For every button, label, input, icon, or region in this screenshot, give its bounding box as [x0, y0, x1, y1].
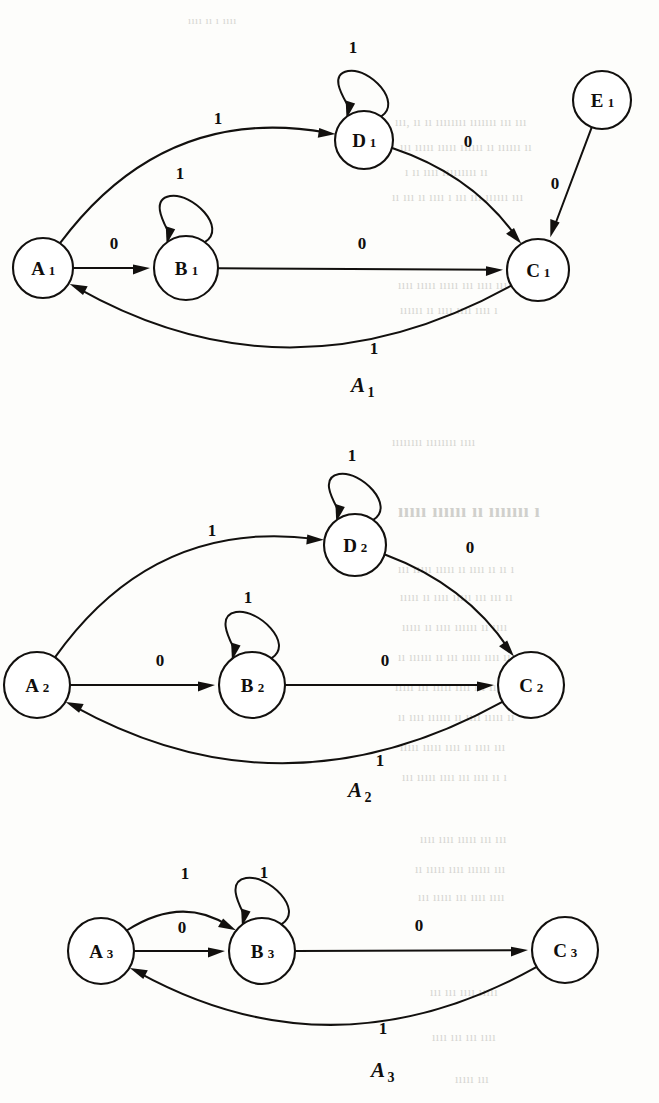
caption-A2: A2: [346, 778, 372, 805]
transition-A2-A2-D2-1-0[interactable]: 1: [55, 521, 324, 658]
edge-arrowhead-A3-B3-C3-0-3: [511, 947, 528, 957]
edge-label-A2-A2-B2-0-3: 0: [156, 651, 165, 670]
state-node-B2[interactable]: B2: [219, 652, 285, 718]
state-subscript-D2: 2: [361, 540, 368, 555]
state-node-A1[interactable]: A1: [13, 238, 73, 298]
transition-A2-A2-B2-0-3[interactable]: 0: [71, 651, 215, 692]
edge-arc-A2-D2-C2-0-2: [385, 554, 509, 649]
edge-label-A1-B1-C1-0-6: 0: [358, 234, 367, 253]
transition-A1-A1-B1-0-4[interactable]: 0: [74, 234, 150, 275]
edge-line-A1-B1-C1-0-6: [219, 268, 495, 270]
edge-label-A1-C1-A1-1-7: 1: [370, 339, 379, 358]
transition-A2-C2-A2-1-6[interactable]: 1: [66, 702, 503, 770]
edge-arc-A2-C2-A2-1-6: [74, 702, 503, 763]
transition-A2-B2-B2-1-4[interactable]: 1: [225, 588, 278, 661]
state-node-D2[interactable]: D2: [324, 514, 386, 576]
automaton-A1: 11000101A1B1C1D1E1A1: [13, 38, 631, 401]
state-letter-C1: C: [526, 260, 540, 281]
state-subscript-A1: 1: [49, 263, 56, 278]
transition-A1-C1-A1-1-7[interactable]: 1: [70, 284, 512, 358]
state-node-C1[interactable]: C1: [507, 239, 569, 301]
state-subscript-E1: 1: [608, 95, 615, 110]
transition-A1-D1-C1-0-2[interactable]: 0: [392, 132, 521, 244]
edge-label-A2-A2-D2-1-0: 1: [208, 521, 217, 540]
state-subscript-B1: 1: [192, 263, 199, 278]
transition-A1-B1-C1-0-6[interactable]: 0: [219, 234, 503, 277]
edge-arrowhead-A2-C2-A2-1-6: [66, 702, 84, 713]
caption-subscript-A1: 1: [368, 385, 375, 400]
transition-A2-D2-D2-1-1[interactable]: 1: [329, 446, 381, 523]
edge-arc-A1-C1-A1-1-7: [78, 286, 512, 348]
edge-label-A1-A1-B1-0-4: 0: [110, 234, 119, 253]
edge-arrowhead-A1-A1-B1-0-4: [133, 264, 150, 274]
caption-letter-A3: A: [369, 1058, 385, 1082]
state-letter-C3: C: [553, 940, 567, 961]
edge-label-A2-D2-D2-1-1: 1: [348, 446, 357, 465]
edge-label-A3-A3-B3-1-0: 1: [181, 864, 190, 883]
transition-A1-A1-D1-1-0[interactable]: 1: [60, 109, 335, 243]
caption-A1: A1: [349, 373, 375, 400]
edge-label-A2-D2-C2-0-2: 0: [466, 538, 475, 557]
edge-label-A1-E1-C1-0-3: 0: [551, 174, 560, 193]
state-node-C2[interactable]: C2: [498, 652, 564, 718]
transition-A2-D2-C2-0-2[interactable]: 0: [385, 538, 514, 657]
transition-A1-D1-D1-1-1[interactable]: 1: [338, 38, 388, 119]
edge-arc-A1-D1-C1-0-2: [392, 148, 516, 237]
caption-letter-A1: A: [349, 373, 365, 397]
state-subscript-B3: 3: [268, 946, 275, 961]
edge-label-A2-C2-A2-1-6: 1: [376, 751, 385, 770]
state-subscript-B2: 2: [258, 680, 265, 695]
state-node-B1[interactable]: B1: [154, 236, 218, 300]
edge-arrowhead-A2-B2-C2-0-5: [477, 681, 494, 691]
state-subscript-A3: 3: [107, 946, 114, 961]
caption-letter-A2: A: [346, 778, 362, 802]
automaton-A3: 10101A3B3C3A3: [68, 863, 598, 1086]
state-letter-D1: D: [352, 130, 366, 151]
automata-diagram-svg: 11000101A1B1C1D1E1A11100101A2B2C2D2A2101…: [0, 0, 659, 1103]
state-letter-B1: B: [175, 258, 188, 279]
edge-arrowhead-A3-A3-B3-0-1: [208, 947, 225, 957]
state-node-A2[interactable]: A2: [4, 652, 70, 718]
state-node-D1[interactable]: D1: [335, 111, 393, 169]
edge-label-A2-B2-B2-1-4: 1: [244, 588, 253, 607]
caption-subscript-A3: 3: [388, 1070, 395, 1085]
transition-A1-E1-C1-0-3[interactable]: 0: [550, 128, 591, 237]
transition-A3-B3-C3-0-3[interactable]: 0: [296, 916, 528, 957]
edge-arrowhead-A2-D2-C2-0-2: [499, 641, 514, 657]
transition-A3-A3-B3-0-1[interactable]: 0: [135, 918, 225, 958]
edge-arrowhead-A1-A1-D1-1-0: [318, 128, 336, 138]
state-subscript-C1: 1: [544, 265, 551, 280]
transition-A3-C3-A3-1-4[interactable]: 1: [130, 967, 536, 1037]
edge-arrowhead-A1-E1-C1-0-3: [550, 219, 559, 237]
edge-label-A3-A3-B3-0-1: 0: [178, 918, 187, 937]
edge-label-A1-A1-D1-1-0: 1: [214, 109, 223, 128]
state-node-B3[interactable]: B3: [229, 918, 295, 984]
state-subscript-A2: 2: [43, 680, 50, 695]
edge-label-A3-B3-C3-0-3: 0: [415, 916, 424, 935]
state-letter-B2: B: [241, 675, 254, 696]
state-letter-B3: B: [251, 941, 264, 962]
edge-arrowhead-A2-A2-D2-1-0: [306, 535, 324, 545]
edge-label-A1-D1-C1-0-2: 0: [464, 132, 473, 151]
state-subscript-D1: 1: [370, 135, 377, 150]
state-node-C3[interactable]: C3: [532, 917, 598, 983]
edge-arrowhead-A2-A2-B2-0-3: [198, 681, 215, 691]
edge-label-A3-C3-A3-1-4: 1: [379, 1019, 388, 1038]
caption-subscript-A2: 2: [365, 790, 372, 805]
state-node-A3[interactable]: A3: [68, 918, 134, 984]
state-node-E1[interactable]: E1: [573, 71, 631, 129]
state-letter-A3: A: [89, 941, 103, 962]
self-loop-path-A1-D1-D1-1-1: [338, 71, 388, 117]
edge-label-A1-B1-B1-1-5: 1: [176, 164, 185, 183]
figure-page: ıııı ıı ı ııııııı, ıı ıı ıııııııı ıııııı…: [0, 0, 659, 1103]
transition-A2-B2-C2-0-5[interactable]: 0: [286, 651, 494, 692]
state-subscript-C2: 2: [537, 680, 544, 695]
edge-label-A1-D1-D1-1-1: 1: [349, 38, 358, 57]
state-subscript-C3: 3: [571, 945, 578, 960]
state-letter-A2: A: [25, 675, 39, 696]
automaton-A2: 1100101A2B2C2D2A2: [4, 446, 564, 806]
edge-label-A2-B2-C2-0-5: 0: [381, 651, 390, 670]
edge-arrowhead-A1-B1-C1-0-6: [486, 266, 503, 276]
edge-arrowhead-A1-D1-C1-0-2: [506, 228, 521, 244]
transition-A1-B1-B1-1-5[interactable]: 1: [160, 164, 213, 245]
